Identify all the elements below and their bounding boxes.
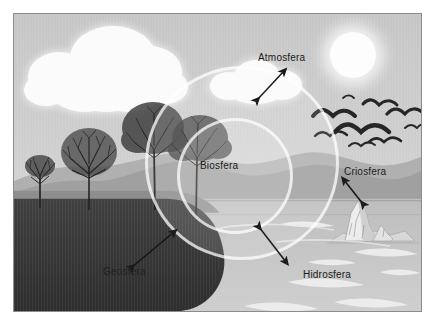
label-atmosfera: Atmosfera xyxy=(258,52,305,63)
diagram-frame: Atmosfera Biosfera Criosfera Hidrosfera … xyxy=(13,13,422,312)
arrow-hidrosfera xyxy=(259,227,286,262)
arrow-criosfera xyxy=(344,180,363,204)
label-hidrosfera: Hidrosfera xyxy=(303,269,351,280)
label-criosfera: Criosfera xyxy=(344,166,386,177)
arrow-geosfera xyxy=(132,232,174,267)
label-geosfera: Geosfera xyxy=(103,266,146,277)
label-biosfera: Biosfera xyxy=(200,160,238,171)
arrow-atmosfera xyxy=(257,71,284,100)
